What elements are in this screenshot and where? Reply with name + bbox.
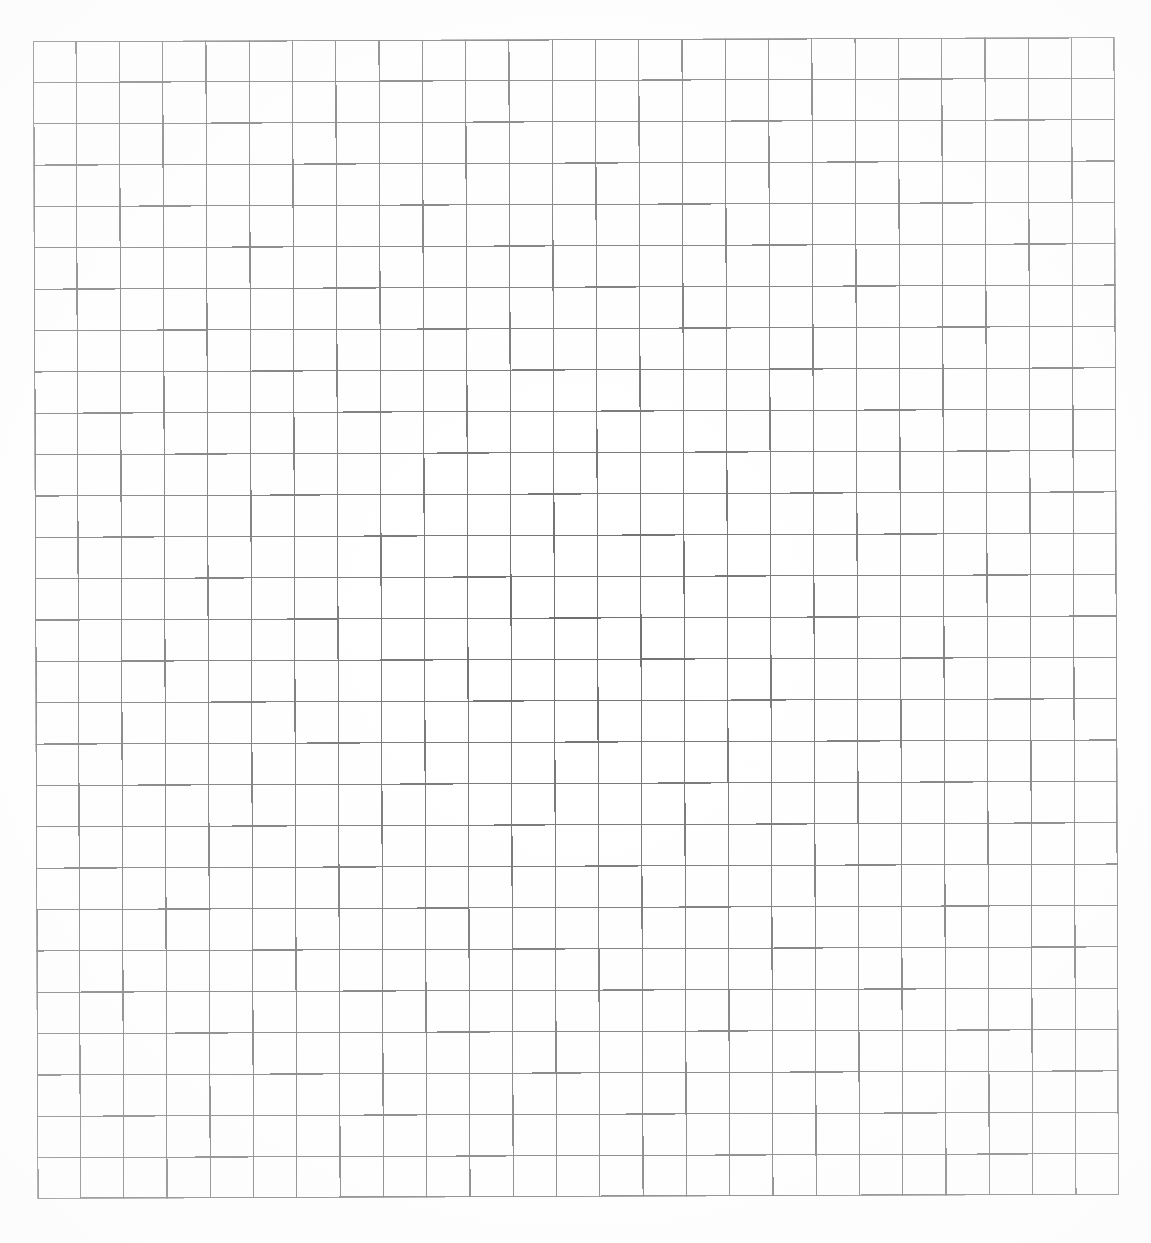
grid-skew-wrapper [0, 0, 1151, 1243]
page-root [0, 0, 1151, 1243]
grid-lines-svg [33, 37, 1119, 1199]
graph-paper-grid [33, 37, 1119, 1199]
